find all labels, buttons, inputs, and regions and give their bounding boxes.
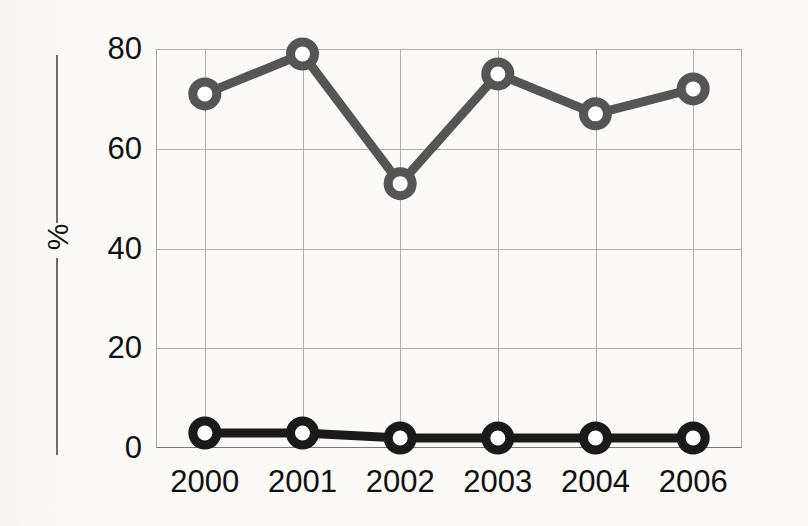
y-axis-rule-upper xyxy=(56,55,58,223)
x-tick-2004: 2004 xyxy=(561,464,630,500)
y-axis-rule-lower xyxy=(56,258,58,455)
y-tick-60: 60 xyxy=(108,131,142,167)
series-layer xyxy=(156,49,742,448)
series-lower-series xyxy=(193,421,705,450)
y-tick-0: 0 xyxy=(125,430,142,466)
data-point-upper-series-2002 xyxy=(388,172,412,196)
chart-figure: % 020406080 200020012002200320042006 xyxy=(0,0,808,526)
data-point-lower-series-2004 xyxy=(584,426,608,450)
y-axis-label: % xyxy=(33,207,83,267)
x-tick-2003: 2003 xyxy=(463,464,532,500)
x-tick-2006: 2006 xyxy=(659,464,728,500)
y-tick-80: 80 xyxy=(108,31,142,67)
data-point-upper-series-2006 xyxy=(681,77,705,101)
data-point-lower-series-2001 xyxy=(291,421,315,445)
data-point-upper-series-2004 xyxy=(584,102,608,126)
data-point-upper-series-2000 xyxy=(193,82,217,106)
series-line-lower-series xyxy=(205,433,693,438)
y-tick-20: 20 xyxy=(108,330,142,366)
series-upper-series xyxy=(193,42,705,196)
plot-area: 020406080 200020012002200320042006 xyxy=(156,49,742,448)
data-point-lower-series-2006 xyxy=(681,426,705,450)
data-point-upper-series-2001 xyxy=(291,42,315,66)
data-point-lower-series-2002 xyxy=(388,426,412,450)
data-point-upper-series-2003 xyxy=(486,62,510,86)
x-tick-2000: 2000 xyxy=(170,464,239,500)
x-tick-2002: 2002 xyxy=(366,464,435,500)
data-point-lower-series-2003 xyxy=(486,426,510,450)
data-point-lower-series-2000 xyxy=(193,421,217,445)
x-tick-2001: 2001 xyxy=(268,464,337,500)
y-tick-40: 40 xyxy=(108,231,142,267)
series-line-upper-series xyxy=(205,54,693,184)
